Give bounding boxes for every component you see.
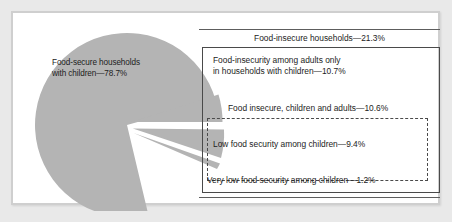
pie-chart-figure: Food-secure households with children—78.… bbox=[0, 0, 452, 222]
callout-panel: Food-insecure households—21.3% Food-inse… bbox=[199, 27, 440, 199]
pie-label-food-secure-line1: Food-secure households bbox=[52, 58, 140, 69]
label-food-insecure-households: Food-insecure households—21.3% bbox=[199, 33, 440, 43]
footer-rule-bottom bbox=[199, 197, 440, 198]
label-adults-only: Food-insecurity among adults only in hou… bbox=[213, 55, 346, 77]
pie-label-food-secure-line2: with children—78.7% bbox=[52, 69, 140, 80]
label-low-food-security: Low food security among children—9.4% bbox=[213, 139, 365, 150]
label-adults-only-line2: in households with children—10.7% bbox=[213, 66, 346, 77]
label-very-low-food-security: Very low food security among children—1.… bbox=[207, 175, 376, 186]
label-children-and-adults: Food insecure, children and adults—10.6% bbox=[228, 103, 388, 114]
figure-frame: Food-secure households with children—78.… bbox=[11, 11, 440, 205]
label-adults-only-line1: Food-insecurity among adults only bbox=[213, 55, 346, 66]
header-rule-top bbox=[199, 29, 440, 30]
pie-label-food-secure: Food-secure households with children—78.… bbox=[52, 58, 140, 79]
